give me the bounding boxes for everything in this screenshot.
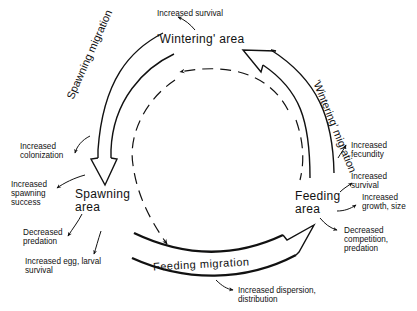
- annotation-increased-colonization: Increased colonization: [20, 142, 63, 160]
- wintering-migration-arrow: [243, 50, 334, 178]
- annotation-decreased-predation: Decreased predation: [23, 228, 63, 246]
- dashed-return-path: [132, 69, 303, 244]
- feeding-area-label: Feeding area: [295, 190, 340, 217]
- annotation-feeding-increased-survival: Increased survival: [351, 172, 387, 190]
- annotation-decreased-competition-predation: Decreased competition, predation: [344, 226, 388, 254]
- wintering-area-label: 'Wintering' area: [157, 33, 244, 46]
- annotation-increased-dispersion: Increased dispersion, distribution: [238, 286, 316, 304]
- annotation-increased-spawning-success: Increased spawning success: [11, 180, 47, 208]
- annotation-leaders: [57, 17, 356, 290]
- annotation-wintering-increased-survival: Increased survival: [157, 9, 223, 18]
- migration-cycle-diagram: 'Wintering' area Spawning area Feeding a…: [0, 0, 417, 311]
- annotation-increased-growth-size: Increased growth, size: [362, 193, 406, 211]
- annotation-increased-egg-larval-survival: Increased egg, larval survival: [25, 257, 101, 275]
- spawning-area-label: Spawning area: [75, 188, 130, 215]
- annotation-increased-fecundity: Increased fecundity: [351, 141, 387, 159]
